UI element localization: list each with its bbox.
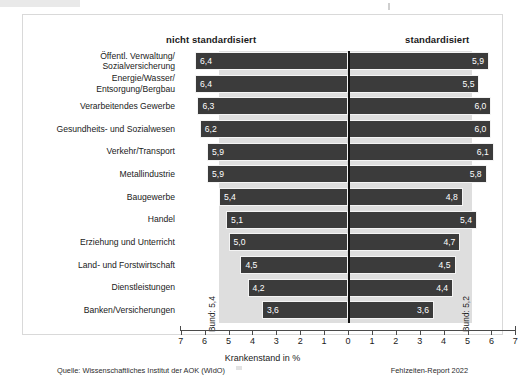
plot-area: 6,45,96,45,56,36,06,26,05,96,15,95,85,44… <box>180 51 515 323</box>
bar-nicht-standardisiert: 6,4 <box>195 75 348 93</box>
category-axis: Öffentl. Verwaltung/ SozialversicherungE… <box>47 51 175 323</box>
bar-nicht-standardisiert: 3,6 <box>262 301 348 319</box>
bar-standardisiert: 3,6 <box>348 301 434 319</box>
axis-tick-label: 4 <box>436 336 452 346</box>
axis-tick <box>468 330 469 335</box>
bar-nicht-standardisiert: 6,3 <box>197 97 348 115</box>
bar-value-label: 3,6 <box>417 305 429 315</box>
axis-tick-label: 4 <box>244 336 260 346</box>
column-header-left: nicht standardisiert <box>166 34 256 45</box>
axis-end-cap <box>515 326 516 331</box>
bar-value-label: 5,0 <box>234 237 246 247</box>
axis-tick <box>396 330 397 335</box>
axis-tick <box>205 330 206 335</box>
bar-nicht-standardisiert: 6,2 <box>200 120 348 138</box>
reference-label-left: Bund: 5,4 <box>207 296 217 332</box>
x-axis-title: Krankenstand in % <box>23 353 502 363</box>
axis-tick <box>491 330 492 335</box>
bar-nicht-standardisiert: 5,0 <box>229 233 349 251</box>
bar-value-label: 4,8 <box>446 192 458 202</box>
bar-value-label: 5,5 <box>462 79 474 89</box>
bar-value-label: 5,9 <box>212 147 224 157</box>
bar-value-label: 6,4 <box>200 56 212 66</box>
column-header-right: standardisiert <box>405 34 469 45</box>
axis-tick-label: 3 <box>412 336 428 346</box>
bar-standardisiert: 6,0 <box>348 120 491 138</box>
category-label: Gesundheits- und Sozialwesen <box>43 124 175 135</box>
axis-tick <box>252 330 253 335</box>
bar-value-label: 4,7 <box>443 237 455 247</box>
bar-value-label: 5,4 <box>460 215 472 225</box>
axis-tick-label: 1 <box>316 336 332 346</box>
bar-value-label: 3,6 <box>267 305 279 315</box>
scan-artifact-bottom <box>236 366 242 370</box>
axis-tick-label: 2 <box>388 336 404 346</box>
bar-standardisiert: 4,4 <box>348 279 453 297</box>
zero-axis-line <box>348 51 350 323</box>
reference-label-right: Bund: 5,2 <box>461 296 471 332</box>
axis-tick <box>300 330 301 335</box>
bar-standardisiert: 6,1 <box>348 143 494 161</box>
bar-nicht-standardisiert: 4,2 <box>248 279 348 297</box>
bar-nicht-standardisiert: 4,5 <box>240 256 348 274</box>
axis-tick-label: 5 <box>221 336 237 346</box>
bar-value-label: 4,2 <box>253 283 265 293</box>
bar-value-label: 5,9 <box>212 169 224 179</box>
bar-standardisiert: 5,5 <box>348 75 479 93</box>
bar-value-label: 4,4 <box>436 283 448 293</box>
axis-tick-label: 5 <box>460 336 476 346</box>
bar-value-label: 5,8 <box>470 169 482 179</box>
bar-value-label: 4,5 <box>439 260 451 270</box>
axis-tick-label: 6 <box>483 336 499 346</box>
chart-card: nicht standardisiert standardisiert Öffe… <box>22 14 503 335</box>
bar-value-label: 6,4 <box>200 79 212 89</box>
category-label: Baugewerbe <box>43 192 175 203</box>
axis-tick <box>276 330 277 335</box>
bar-value-label: 5,9 <box>472 56 484 66</box>
bar-value-label: 4,5 <box>245 260 257 270</box>
axis-tick-label: 7 <box>173 336 189 346</box>
category-label: Banken/Versicherungen <box>43 305 175 316</box>
bar-value-label: 6,1 <box>477 147 489 157</box>
axis-tick-label: 6 <box>197 336 213 346</box>
bar-nicht-standardisiert: 6,4 <box>195 52 348 70</box>
source-note: Quelle: Wissenschaftliches Institut der … <box>57 366 225 375</box>
axis-tick <box>372 330 373 335</box>
axis-tick-label: 7 <box>507 336 522 346</box>
report-note: Fehlzeiten-Report 2022 <box>391 366 468 375</box>
bar-standardisiert: 5,8 <box>348 165 487 183</box>
bar-nicht-standardisiert: 5,9 <box>207 165 348 183</box>
axis-tick-label: 2 <box>292 336 308 346</box>
bar-nicht-standardisiert: 5,1 <box>226 211 348 229</box>
category-label: Metallindustrie <box>43 169 175 180</box>
axis-end-cap <box>180 326 181 331</box>
axis-tick <box>348 330 349 335</box>
category-label: Verarbeitendes Gewerbe <box>43 101 175 112</box>
bar-nicht-standardisiert: 5,9 <box>207 143 348 161</box>
bar-value-label: 6,3 <box>202 101 214 111</box>
category-label: Verkehr/Transport <box>43 146 175 157</box>
bar-nicht-standardisiert: 5,4 <box>219 188 348 206</box>
axis-tick <box>324 330 325 335</box>
category-label: Dienstleistungen <box>43 282 175 293</box>
bar-standardisiert: 4,5 <box>348 256 456 274</box>
bar-value-label: 6,2 <box>205 124 217 134</box>
axis-tick <box>420 330 421 335</box>
category-label: Energie/Wasser/ Entsorgung/Bergbau <box>43 73 175 94</box>
axis-tick <box>444 330 445 335</box>
category-label: Handel <box>43 214 175 225</box>
axis-tick-label: 1 <box>364 336 380 346</box>
bar-standardisiert: 4,8 <box>348 188 463 206</box>
axis-tick-label: 0 <box>340 336 356 346</box>
category-label: Land- und Forstwirtschaft <box>43 260 175 271</box>
scan-artifact-dot <box>388 3 390 10</box>
bar-standardisiert: 6,0 <box>348 97 491 115</box>
scan-artifact-top <box>0 0 80 7</box>
axis-tick-label: 3 <box>268 336 284 346</box>
bar-standardisiert: 5,4 <box>348 211 477 229</box>
bar-standardisiert: 5,9 <box>348 52 489 70</box>
category-label: Öffentl. Verwaltung/ Sozialversicherung <box>43 51 175 72</box>
axis-tick <box>229 330 230 335</box>
bar-value-label: 6,0 <box>474 101 486 111</box>
bar-standardisiert: 4,7 <box>348 233 460 251</box>
